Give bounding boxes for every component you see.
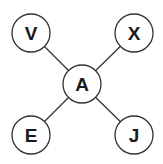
node-v: V [12, 14, 50, 52]
node-a: A [63, 65, 101, 103]
node-j: J [115, 116, 153, 154]
node-a-label: A [75, 74, 89, 95]
star-diagram: V X A E J [0, 0, 163, 164]
node-j-label: J [129, 125, 140, 146]
node-x-label: X [128, 23, 141, 44]
node-e-label: E [25, 125, 38, 146]
node-x: X [115, 14, 153, 52]
node-e: E [12, 116, 50, 154]
node-v-label: V [25, 23, 38, 44]
